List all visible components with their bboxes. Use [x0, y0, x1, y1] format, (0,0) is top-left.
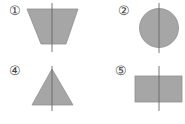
figure-trapezoid — [27, 3, 78, 52]
label-figure-4: ④ — [9, 64, 21, 77]
figure-circle — [140, 3, 179, 53]
label-figure-5: ⑤ — [115, 64, 127, 77]
figure-rectangle — [135, 66, 182, 111]
figures-canvas — [0, 0, 185, 124]
figure-triangle — [32, 66, 73, 111]
label-figure-2: ② — [118, 4, 130, 17]
label-figure-1: ① — [9, 4, 21, 17]
